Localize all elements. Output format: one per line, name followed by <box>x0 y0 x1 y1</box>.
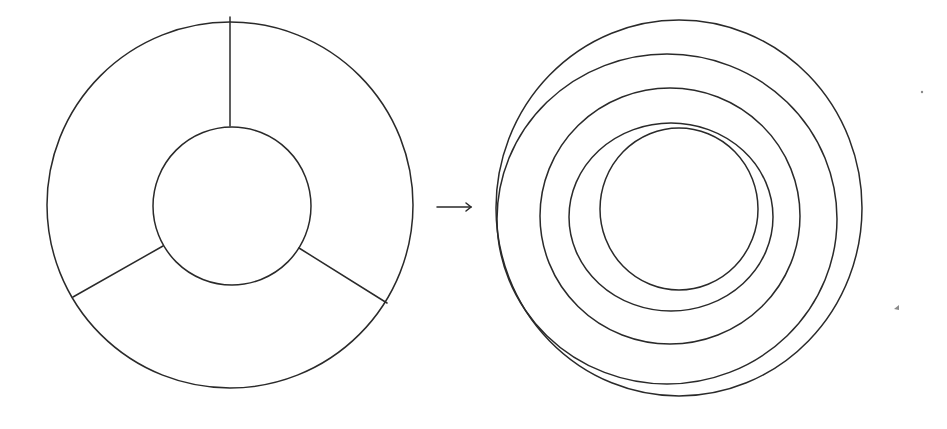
spiral-ring-2 <box>497 54 837 384</box>
three-arm-spiral <box>496 20 862 396</box>
arrow-icon <box>437 203 471 211</box>
speck-mark <box>894 305 899 310</box>
stray-marks <box>894 91 923 310</box>
inner-circle <box>153 127 311 285</box>
spiral-ring-5 <box>600 128 758 290</box>
diagram-canvas <box>0 0 947 429</box>
spiral-ring-3 <box>540 88 800 344</box>
speck-dot <box>921 91 923 93</box>
spoke-line <box>299 248 387 303</box>
diagram-svg <box>0 0 947 429</box>
three-sector-annulus <box>47 17 413 388</box>
spoke-line <box>73 246 163 297</box>
spiral-ring-4 <box>569 123 773 311</box>
